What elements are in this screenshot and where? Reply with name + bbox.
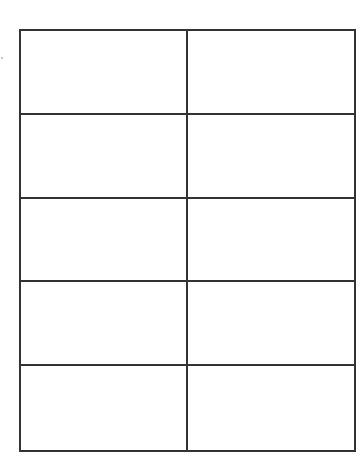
label-cell-r2-c2[interactable] — [188, 115, 355, 199]
label-cell-r4-c1[interactable] — [21, 282, 188, 366]
label-grid — [19, 29, 356, 452]
label-cell-r5-c1[interactable] — [21, 366, 188, 450]
label-cell-r4-c2[interactable] — [188, 282, 355, 366]
label-cell-r5-c2[interactable] — [188, 366, 355, 450]
label-cell-r2-c1[interactable] — [21, 115, 188, 199]
stray-mark — [1, 57, 3, 59]
label-cell-r1-c1[interactable] — [21, 31, 188, 115]
label-cell-r3-c1[interactable] — [21, 199, 188, 283]
label-cell-r3-c2[interactable] — [188, 199, 355, 283]
label-cell-r1-c2[interactable] — [188, 31, 355, 115]
